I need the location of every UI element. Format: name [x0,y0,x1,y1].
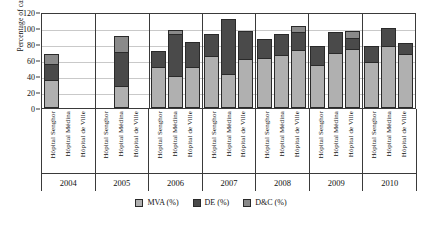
bar-segment-de[interactable] [204,34,219,56]
x-axis-groups: Hôpital SenghorHôpital MédinaHôpital de … [41,109,416,191]
bar-segment-de[interactable] [238,31,253,59]
hospital-label: Hôpital Senghor [264,111,271,159]
year-label: 2005 [113,178,130,188]
bar-segment-de[interactable] [345,38,360,49]
bar-segment-de[interactable] [398,43,413,53]
bar-segment-de[interactable] [291,32,306,50]
bar-segment-mva[interactable] [274,55,289,108]
hospital-label-row: Hôpital SenghorHôpital MédinaHôpital de … [310,109,363,173]
bar-segment-de[interactable] [221,19,236,73]
legend-item[interactable]: D&C (%) [243,198,286,207]
bar-group [362,14,415,108]
bar-group [308,14,361,108]
chart-container: Percentage of cases (%) 020406080100120 … [0,0,422,226]
stacked-bar[interactable] [364,46,379,108]
stacked-bar[interactable] [204,34,219,108]
bar-segment-mva[interactable] [345,49,360,108]
x-axis-group: Hôpital SenghorHôpital MédinaHôpital de … [202,109,257,191]
bar-segment-mva[interactable] [168,76,183,108]
bar-segment-mva[interactable] [151,67,166,108]
legend-label: DE (%) [205,198,230,207]
bar-segment-dc[interactable] [44,54,59,64]
bar-segment-de[interactable] [328,32,343,53]
bar-segment-mva[interactable] [398,54,413,108]
y-axis-tick-label: 100 [23,25,35,34]
year-label: 2010 [381,178,398,188]
hospital-label-row: Hôpital SenghorHôpital MédinaHôpital de … [149,109,202,173]
bar-segment-mva[interactable] [364,62,379,108]
bar-groups [42,14,415,108]
y-axis-tick-label: 60 [27,57,35,66]
hospital-label: Hôpital Médina [65,111,72,157]
year-label-row: 2007 [203,173,256,191]
bar-segment-mva[interactable] [238,59,253,108]
bar-segment-mva[interactable] [204,56,219,108]
stacked-bar[interactable] [381,28,396,108]
hospital-label: Hôpital Senghor [318,111,325,159]
bar-segment-mva[interactable] [221,74,236,108]
hospital-label: Hôpital Médina [172,111,179,157]
hospital-label-row: Hôpital SenghorHôpital MédinaHôpital de … [256,109,309,173]
bar-segment-dc[interactable] [114,36,129,52]
x-axis-group: Hôpital SenghorHôpital MédinaHôpital de … [255,109,310,191]
stacked-bar[interactable] [398,43,413,108]
hospital-label: Hôpital Senghor [371,111,378,159]
bar-segment-de[interactable] [185,42,200,67]
hospital-label: Hôpital de Ville [80,111,87,157]
bar-segment-mva[interactable] [310,65,325,108]
stacked-bar[interactable] [345,31,360,108]
stacked-bar[interactable] [114,36,129,108]
bar-segment-de[interactable] [44,64,59,80]
year-label: 2007 [221,178,238,188]
bar-segment-mva[interactable] [381,46,396,108]
bar-segment-mva[interactable] [257,58,272,108]
bar-group [95,14,148,108]
bar-segment-de[interactable] [114,52,129,86]
bar-segment-de[interactable] [364,46,379,62]
bar-segment-mva[interactable] [291,50,306,108]
chart-legend: MVA (%)DE (%)D&C (%) [0,198,422,207]
bar-segment-mva[interactable] [44,80,59,108]
stacked-bar[interactable] [291,26,306,108]
hospital-label: Hôpital de Ville [240,111,247,157]
year-label-row: 2004 [42,173,95,191]
bar-segment-mva[interactable] [114,86,129,108]
stacked-bar[interactable] [185,42,200,108]
y-axis-tick-mark [36,109,40,110]
bar-segment-mva[interactable] [328,53,343,108]
year-label: 2009 [328,178,345,188]
legend-item[interactable]: MVA (%) [135,198,178,207]
stacked-bar[interactable] [310,46,325,108]
plot-area [41,13,416,109]
stacked-bar[interactable] [274,34,289,108]
stacked-bar[interactable] [238,31,253,108]
bar-segment-de[interactable] [310,46,325,65]
x-axis-group: Hôpital SenghorHôpital MédinaHôpital de … [362,109,417,191]
hospital-label: Hôpital Médina [333,111,340,157]
year-label: 2004 [60,178,77,188]
legend-swatch [193,199,201,207]
stacked-bar[interactable] [168,30,183,108]
hospital-label: Hôpital Senghor [211,111,218,159]
year-label-row: 2008 [256,173,309,191]
stacked-bar[interactable] [44,54,59,108]
bar-segment-de[interactable] [151,51,166,67]
hospital-label: Hôpital de Ville [133,111,140,157]
bar-segment-de[interactable] [168,34,183,76]
bar-segment-de[interactable] [274,34,289,55]
stacked-bar[interactable] [221,19,236,108]
stacked-bar[interactable] [328,32,343,108]
y-axis-tick-label: 20 [27,89,35,98]
stacked-bar[interactable] [151,51,166,108]
legend-item[interactable]: DE (%) [193,198,230,207]
y-axis-tick-mark [36,45,40,46]
y-axis-tick-label: 80 [27,41,35,50]
hospital-label: Hôpital de Ville [348,111,355,157]
bar-segment-mva[interactable] [185,67,200,108]
legend-swatch [135,199,143,207]
bar-segment-de[interactable] [257,39,272,57]
year-label-row: 2005 [96,173,149,191]
stacked-bar[interactable] [257,39,272,108]
bar-segment-de[interactable] [381,28,396,46]
year-label: 2008 [274,178,291,188]
